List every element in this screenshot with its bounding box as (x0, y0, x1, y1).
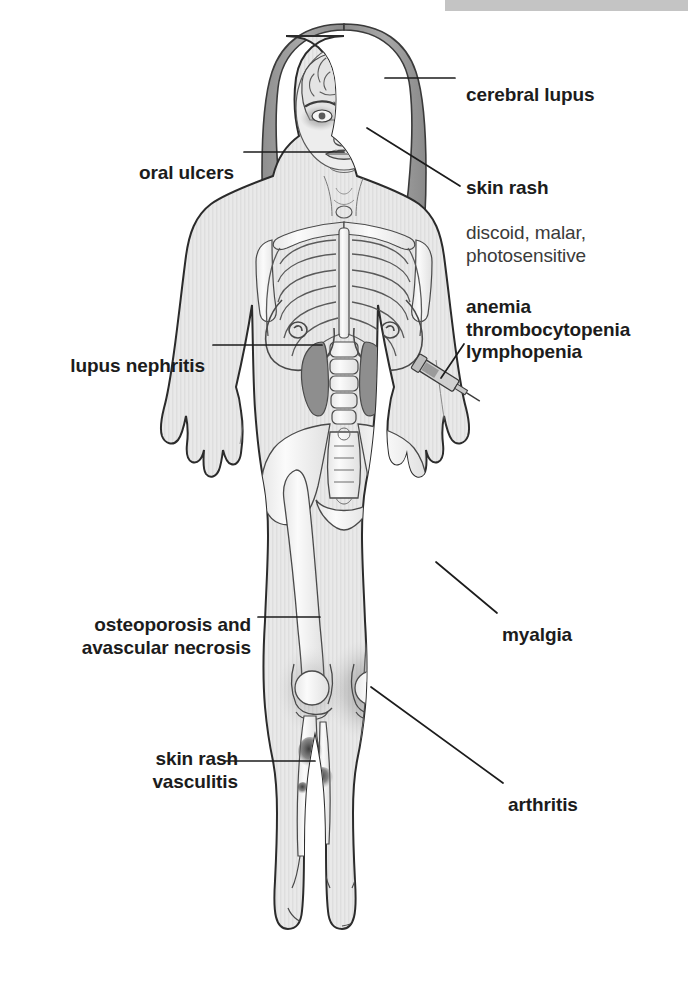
knee-joint (276, 638, 420, 742)
label-skin-rash-vasculitis: skin rash vasculitis (38, 726, 238, 816)
label-lupus-nephritis-heading: lupus nephritis (5, 355, 205, 377)
label-oral-ulcers-heading: oral ulcers (34, 162, 234, 184)
label-myalgia-heading: myalgia (502, 624, 572, 646)
label-skin-rash-face-heading: skin rash (466, 177, 586, 199)
label-skin-rash-vasculitis-heading: skin rash vasculitis (38, 748, 238, 793)
leader-arthritis (371, 687, 503, 783)
label-arthritis: arthritis (508, 772, 578, 839)
label-skin-rash-face: skin rash discoid, malar, photosensitive (466, 155, 586, 289)
label-arthritis-heading: arthritis (508, 794, 578, 816)
thigh-muscle (385, 500, 421, 647)
label-oral-ulcers: oral ulcers (34, 140, 234, 207)
label-osteoporosis-avascular-necrosis: osteoporosis and avascular necrosis (11, 592, 251, 682)
label-anemia-heading: anemia thrombocytopenia lymphopenia (466, 296, 630, 363)
label-cerebral-lupus: cerebral lupus (466, 62, 594, 129)
label-myalgia: myalgia (502, 602, 572, 669)
label-osteoporosis-heading: osteoporosis and avascular necrosis (11, 614, 251, 659)
leader-myalgia (436, 562, 497, 613)
label-cerebral-lupus-heading: cerebral lupus (466, 84, 594, 106)
label-anemia-thrombocytopenia-lymphopenia: anemia thrombocytopenia lymphopenia (466, 274, 630, 386)
label-lupus-nephritis: lupus nephritis (5, 333, 205, 400)
lupus-diagram-figure: cerebral lupus skin rash discoid, malar,… (0, 0, 688, 984)
label-skin-rash-face-detail: discoid, malar, photosensitive (466, 222, 586, 267)
spine (330, 342, 358, 424)
